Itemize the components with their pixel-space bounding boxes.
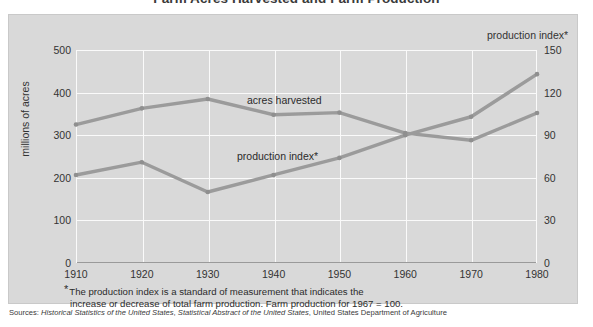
data-point [205, 97, 210, 102]
y-tick-right-60: 60 [544, 172, 556, 184]
x-tick-1920: 1920 [130, 268, 153, 280]
data-point [535, 111, 540, 116]
data-point [337, 156, 342, 161]
data-point [140, 160, 145, 165]
y-tick-right-30: 30 [544, 214, 556, 226]
y-tick-left-300: 300 [53, 129, 71, 141]
y-tick-left-100: 100 [53, 214, 71, 226]
data-point [337, 110, 342, 115]
data-point [74, 122, 79, 127]
footnote-line-1: The production index is a standard of me… [69, 286, 363, 297]
y-tick-left-400: 400 [53, 87, 71, 99]
y-tick-left-500: 500 [53, 44, 71, 56]
line-production-index [76, 74, 537, 192]
chart-panel: millions of acres production index* 500 … [8, 14, 578, 304]
x-tick-1970: 1970 [459, 268, 482, 280]
source-item-3: United States Department of Agriculture [313, 308, 447, 317]
series-label-acres-harvested: acres harvested [247, 94, 322, 106]
y-tick-right-90: 90 [544, 129, 556, 141]
y-tick-right-120: 120 [544, 87, 562, 99]
y-axis-right-label: production index* [487, 29, 568, 41]
data-point [469, 114, 474, 119]
x-tick-1960: 1960 [394, 268, 417, 280]
data-point [271, 173, 276, 178]
data-point [271, 112, 276, 117]
x-tick-1950: 1950 [328, 268, 351, 280]
points-production-index [74, 72, 540, 194]
y-axis-right-ticks: 150 120 90 60 30 0 [544, 50, 584, 263]
source-item-1: Historical Statistics of the United Stat… [41, 308, 174, 317]
x-tick-1980: 1980 [525, 268, 548, 280]
footnote: *The production index is a standard of m… [64, 283, 534, 310]
x-tick-1930: 1930 [196, 268, 219, 280]
data-point [469, 138, 474, 143]
data-point [205, 190, 210, 195]
sources-note: Sources: Historical Statistics of the Un… [9, 308, 447, 317]
sources-prefix: Sources: [9, 308, 41, 317]
y-tick-left-200: 200 [53, 172, 71, 184]
data-point [140, 106, 145, 111]
x-tick-1910: 1910 [64, 268, 87, 280]
data-point [403, 133, 408, 138]
source-item-2: Statistical Abstract of the United State… [178, 308, 309, 317]
series-label-production-index: production index* [237, 150, 318, 162]
page-title: Farm Acres Harvested and Farm Production [0, 0, 593, 6]
footnote-asterisk: * [64, 283, 68, 295]
data-point [535, 72, 540, 77]
y-axis-left-ticks: 500 400 300 200 100 0 [29, 50, 71, 263]
y-tick-right-150: 150 [544, 44, 562, 56]
x-axis-ticks: 1910 1920 1930 1940 1950 1960 1970 1980 [76, 268, 537, 282]
data-point [74, 173, 79, 178]
x-tick-1940: 1940 [262, 268, 285, 280]
